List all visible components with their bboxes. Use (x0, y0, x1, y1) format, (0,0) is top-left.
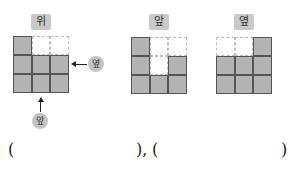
answer-blank-1[interactable] (18, 140, 133, 160)
front-view-grid (131, 37, 187, 94)
empty-cell (32, 36, 51, 55)
side-view-label: 옆 (234, 14, 254, 30)
side-arrow-icon (75, 64, 87, 65)
filled-cell (13, 74, 32, 93)
empty-cell (235, 37, 254, 56)
side-direction-label: 옆 (88, 56, 104, 72)
filled-cell (50, 74, 69, 93)
filled-cell (50, 55, 69, 74)
filled-cell (131, 75, 150, 94)
filled-cell (150, 75, 169, 94)
filled-cell (216, 75, 235, 94)
front-direction-label: 앞 (32, 113, 48, 129)
filled-cell (168, 75, 187, 94)
empty-cell (168, 37, 187, 56)
filled-cell (235, 56, 254, 75)
filled-cell (32, 74, 51, 93)
filled-cell (13, 36, 32, 55)
front-arrow-head-icon (38, 97, 44, 102)
empty-cell (50, 36, 69, 55)
filled-cell (216, 56, 235, 75)
filled-cell (253, 56, 272, 75)
filled-cell (32, 55, 51, 74)
filled-cell (13, 55, 32, 74)
filled-cell (253, 75, 272, 94)
answer-blank-2-open: ( (152, 141, 158, 159)
answer-blank-2-close: ) (281, 141, 287, 159)
empty-cell (150, 56, 169, 75)
filled-cell (131, 37, 150, 56)
empty-cell (216, 37, 235, 56)
answer-blank-1-close: ), (136, 141, 147, 159)
top-view-grid (13, 36, 69, 93)
top-view-label: 위 (31, 14, 51, 30)
filled-cell (131, 56, 150, 75)
front-view-label: 앞 (149, 14, 169, 30)
empty-cell (150, 37, 169, 56)
answer-blank-2[interactable] (162, 140, 280, 160)
front-arrow-icon (40, 101, 41, 112)
answer-blank-1-open: ( (8, 141, 14, 159)
filled-cell (168, 56, 187, 75)
side-view-grid (216, 37, 272, 94)
filled-cell (253, 37, 272, 56)
filled-cell (235, 75, 254, 94)
